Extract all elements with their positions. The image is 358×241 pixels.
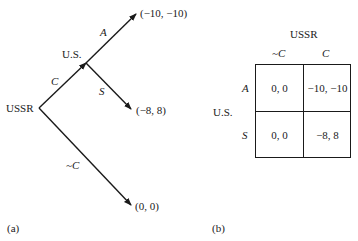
caption-b: (b) bbox=[212, 222, 225, 234]
payoff-a: (−10, −10) bbox=[140, 7, 187, 19]
row-player-label: U.S. bbox=[213, 106, 233, 118]
payoff-not-c: (0, 0) bbox=[135, 200, 159, 212]
cell-a-not-c: 0, 0 bbox=[256, 82, 303, 94]
node-ussr: USSR bbox=[6, 102, 34, 114]
cell-s-not-c: 0, 0 bbox=[256, 129, 303, 141]
edge-not-c bbox=[39, 108, 131, 205]
caption-a: (a) bbox=[7, 222, 19, 234]
cell-s-c: −8, 8 bbox=[304, 129, 351, 141]
column-player-label: USSR bbox=[290, 28, 318, 40]
row-header-a: A bbox=[242, 82, 249, 94]
node-us: U.S. bbox=[62, 48, 82, 60]
cell-a-c: −10, −10 bbox=[304, 82, 351, 94]
payoff-s: (−8, 8) bbox=[136, 104, 166, 116]
edge-label-not-c: ~C bbox=[66, 159, 79, 171]
edge-a bbox=[86, 14, 136, 63]
column-header-c: C bbox=[322, 47, 329, 59]
edge-label-c: C bbox=[51, 75, 58, 87]
edge-label-a: A bbox=[100, 26, 107, 38]
edge-s bbox=[86, 63, 131, 109]
row-header-s: S bbox=[242, 129, 248, 141]
edge-label-s: S bbox=[99, 85, 105, 97]
column-header-not-c: ~C bbox=[272, 47, 285, 59]
edge-c bbox=[39, 63, 86, 108]
